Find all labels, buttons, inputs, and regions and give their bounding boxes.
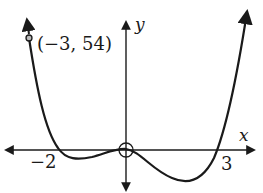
marked-point-circle — [26, 35, 32, 41]
left-branch-arrow — [27, 20, 29, 34]
x-intercept-3-label: 3 — [221, 153, 232, 174]
marked-point-label: (−3, 54) — [37, 33, 112, 54]
y-axis-label: y — [134, 14, 145, 34]
function-graph: (−3, 54) y x −2 3 — [0, 0, 263, 193]
x-intercept-neg2-label: −2 — [30, 151, 57, 172]
x-axis-label: x — [239, 125, 249, 145]
